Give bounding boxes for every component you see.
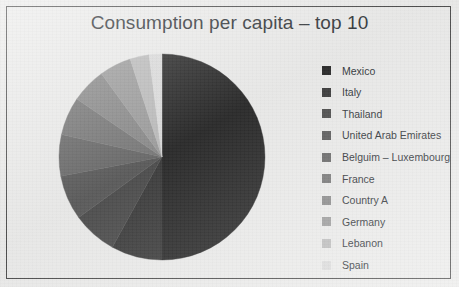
legend-item-label: Lebanon [342,238,383,249]
legend-item[interactable]: Lebanon [322,233,452,255]
legend-item-label: Belguim – Luxembourg [342,152,450,163]
legend-item-label: France [342,174,375,185]
chart-title: Consumption per capita – top 10 [0,12,459,34]
legend-swatch-icon [322,239,331,248]
legend-item-label: Mexico [342,66,375,77]
legend-item[interactable]: Thailand [322,103,452,125]
legend-item-label: Country A [342,195,388,206]
legend-item[interactable]: United Arab Emirates [322,125,452,147]
legend-swatch-icon [322,66,331,75]
legend-swatch-icon [322,131,331,140]
legend-item-label: Germany [342,217,385,228]
legend-swatch-icon [322,174,331,183]
legend-swatch-icon [322,261,331,270]
legend-item[interactable]: Spain [322,254,452,276]
pie-slice-group [59,54,265,260]
pie-chart [58,53,266,261]
chart-legend: MexicoItalyThailandUnited Arab EmiratesB… [322,60,452,276]
legend-swatch-icon [322,88,331,97]
legend-item-label: Thailand [342,109,382,120]
pie-slice[interactable] [162,54,265,260]
legend-swatch-icon [322,196,331,205]
legend-item[interactable]: France [322,168,452,190]
legend-swatch-icon [322,109,331,118]
legend-swatch-icon [322,217,331,226]
pie-chart-svg [58,53,266,261]
legend-item-label: Italy [342,87,361,98]
legend-item[interactable]: Country A [322,190,452,212]
legend-swatch-icon [322,153,331,162]
legend-item[interactable]: Germany [322,211,452,233]
legend-item[interactable]: Belguim – Luxembourg [322,146,452,168]
chart-figure: Consumption per capita – top 10 MexicoIt… [0,0,459,287]
legend-item[interactable]: Mexico [322,60,452,82]
legend-item-label: Spain [342,260,369,271]
legend-item-label: United Arab Emirates [342,130,441,141]
legend-item[interactable]: Italy [322,82,452,104]
